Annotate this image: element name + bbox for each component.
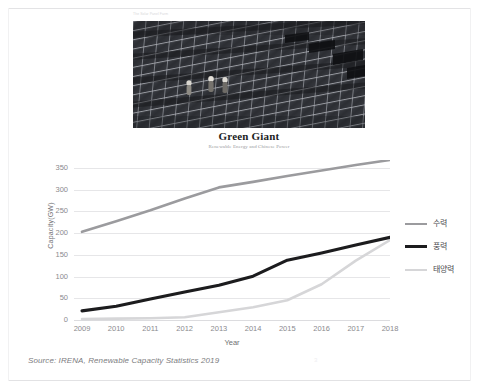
photo-block: The Solar Panel Farm — [133, 11, 365, 151]
x-tick-2009: 2009 — [65, 324, 99, 333]
source-citation: Source: IRENA, Renewable Capacity Statis… — [28, 356, 219, 365]
x-tick-2010: 2010 — [99, 324, 133, 333]
page-title: Green Giant — [133, 130, 365, 142]
legend-item-solar[interactable]: 태양력 — [405, 261, 475, 284]
x-tick-2016: 2016 — [305, 324, 339, 333]
chart-legend: 수력 풍력 태양력 — [405, 215, 475, 284]
legend-swatch-hydro — [405, 223, 427, 225]
capacity-line-chart: Capacity(GW) 350 300 250 200 150 100 50 … — [18, 160, 460, 350]
slide-page: The Solar Panel Farm — [0, 0, 478, 392]
y-tick-100: 100 — [38, 272, 68, 281]
series-line-wind — [82, 237, 390, 311]
page-border-top — [8, 8, 470, 9]
x-axis-label: Year — [74, 338, 390, 347]
page-border-bottom — [8, 380, 470, 381]
legend-item-wind[interactable]: 풍력 — [405, 238, 475, 261]
y-tick-200: 200 — [38, 228, 68, 237]
y-tick-350: 350 — [38, 163, 68, 172]
x-tick-2017: 2017 — [339, 324, 373, 333]
x-tick-2015: 2015 — [270, 324, 304, 333]
series-lines — [74, 160, 390, 322]
photo-kicker-text: The Solar Panel Farm — [133, 12, 168, 16]
y-tick-50: 50 — [38, 293, 68, 302]
legend-label-solar: 태양력 — [433, 263, 455, 274]
page-border-right — [470, 8, 471, 381]
legend-label-hydro: 수력 — [433, 217, 447, 228]
solar-panel-illustration — [133, 21, 365, 128]
solar-panel-field-photo — [133, 21, 365, 128]
legend-swatch-solar — [405, 269, 427, 271]
x-tick-2011: 2011 — [133, 324, 167, 333]
page-subtitle: Renewable Energy and Chinese Power — [133, 144, 365, 149]
x-tick-2012: 2012 — [168, 324, 202, 333]
page-number: 3 — [314, 357, 317, 363]
legend-label-wind: 풍력 — [433, 240, 447, 251]
legend-item-hydro[interactable]: 수력 — [405, 215, 475, 238]
series-line-hydro — [82, 160, 390, 232]
legend-swatch-wind — [405, 245, 427, 248]
chart-plot-area — [74, 160, 390, 320]
x-tick-2014: 2014 — [236, 324, 270, 333]
page-border-left — [8, 8, 9, 381]
x-tick-2013: 2013 — [202, 324, 236, 333]
x-tick-2018: 2018 — [373, 324, 407, 333]
y-tick-150: 150 — [38, 250, 68, 259]
y-tick-0: 0 — [38, 315, 68, 324]
y-tick-250: 250 — [38, 206, 68, 215]
y-tick-300: 300 — [38, 185, 68, 194]
